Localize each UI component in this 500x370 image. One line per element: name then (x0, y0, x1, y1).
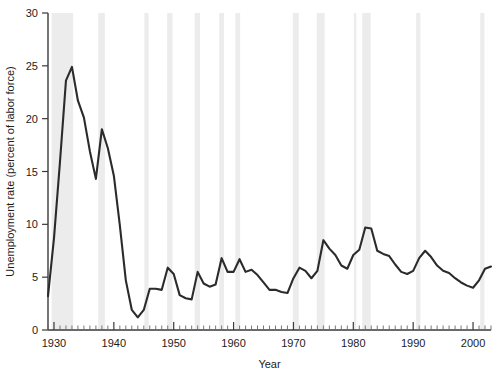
x-axis-tick-label: 1960 (221, 337, 245, 349)
x-axis-tick-label: 1930 (42, 337, 66, 349)
y-axis-tick-label: 0 (32, 324, 38, 336)
x-axis-tick-label: 2000 (461, 337, 485, 349)
x-axis-tick-label: 1940 (102, 337, 126, 349)
recession-band (98, 13, 105, 330)
x-axis-tick-label: 1970 (281, 337, 305, 349)
y-axis-tick-label: 20 (26, 113, 38, 125)
recession-band (354, 13, 356, 330)
recession-band (317, 13, 325, 330)
recession-band (480, 13, 484, 330)
data-line-unemployment-rate (48, 67, 491, 317)
recession-band (219, 13, 224, 330)
recession-bands-group (52, 13, 485, 330)
x-axis-title: Year (258, 358, 281, 370)
x-axis-tick-label: 1950 (161, 337, 185, 349)
recession-band (144, 13, 148, 330)
plot-frame-group (48, 13, 491, 330)
y-axis-ticks-group (42, 13, 48, 330)
x-axis-tick-labels-group: 19301940195019601970198019902000 (42, 337, 486, 349)
y-axis-title: Unemployment rate (percent of labor forc… (4, 66, 16, 276)
recession-band (293, 13, 299, 330)
y-axis-tick-label: 15 (26, 166, 38, 178)
unemployment-rate-chart: 051015202530 193019401950196019701980199… (0, 0, 500, 370)
recession-band (52, 13, 74, 330)
recession-band (167, 13, 172, 330)
recession-band (416, 13, 420, 330)
y-axis-tick-labels-group: 051015202530 (26, 7, 38, 336)
y-axis-tick-label: 25 (26, 60, 38, 72)
y-axis-tick-label: 30 (26, 7, 38, 19)
recession-band (362, 13, 370, 330)
data-series-group (48, 67, 491, 317)
x-axis-ticks-group (48, 322, 491, 330)
chart-canvas: 051015202530 193019401950196019701980199… (0, 0, 500, 370)
x-axis-tick-label: 1990 (401, 337, 425, 349)
x-axis-tick-label: 1980 (341, 337, 365, 349)
recession-band (235, 13, 240, 330)
y-axis-tick-label: 10 (26, 218, 38, 230)
y-axis-tick-label: 5 (32, 271, 38, 283)
